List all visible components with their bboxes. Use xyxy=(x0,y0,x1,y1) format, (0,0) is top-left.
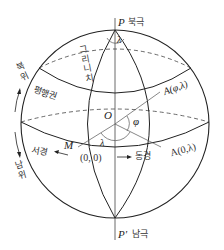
radius-oa-equator xyxy=(115,124,161,147)
east-arrow-head xyxy=(127,155,132,159)
north-arrow-head xyxy=(17,88,21,94)
east-longitude-label: 동경 xyxy=(135,152,151,161)
north-pole-symbol: P xyxy=(118,17,125,28)
south-pole-symbol: P' xyxy=(118,229,127,240)
greenwich-meridian xyxy=(88,30,116,218)
west-arrow-head xyxy=(54,150,59,154)
globe-diagram: P 북극 P' 남극 λ 그리니치 평행권 북위 남위 O φ A(φ,λ) M… xyxy=(0,0,224,250)
radius-om xyxy=(78,124,115,147)
north-pole-label: 북극 xyxy=(128,18,144,27)
phi-label: φ xyxy=(133,116,139,127)
point-m-symbol: M xyxy=(64,140,73,151)
south-pole-label: 남극 xyxy=(132,230,148,239)
phi-angle-arc xyxy=(127,116,129,131)
top-lambda-label: λ xyxy=(117,35,121,45)
globe-svg xyxy=(0,0,224,250)
south-arrow-head xyxy=(17,152,21,158)
center-symbol: O xyxy=(104,110,112,121)
lambda-angle-arc xyxy=(101,132,130,141)
origin-coord-label: (0, 0) xyxy=(80,153,102,163)
equator-lambda-label: λ xyxy=(100,138,104,148)
